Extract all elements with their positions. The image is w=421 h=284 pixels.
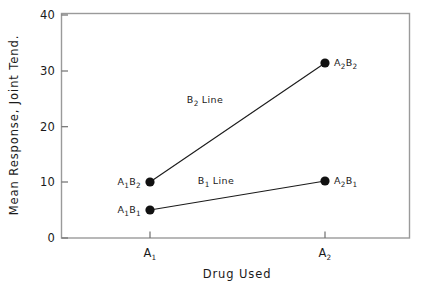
y-tick-label-0: 0 bbox=[47, 231, 55, 245]
x-tick-label-a2-base: A bbox=[319, 246, 327, 260]
y-axis-ticks bbox=[62, 15, 69, 238]
series-annotation-b2-sub: 2 bbox=[194, 99, 199, 108]
x-tick-label-a2: A2 bbox=[319, 246, 332, 262]
point-label-a1b1: A1B1 bbox=[117, 204, 141, 218]
series-line-b1 bbox=[150, 181, 325, 210]
data-point-a1b2[interactable] bbox=[145, 177, 154, 186]
x-axis-ticks bbox=[150, 232, 325, 239]
x-axis-title: Drug Used bbox=[203, 267, 272, 281]
point-label-a1b2: A1B2 bbox=[117, 176, 141, 190]
point-label-a1b1-b: B bbox=[129, 204, 136, 215]
series-annotation-b2-suffix: Line bbox=[202, 94, 223, 105]
point-label-a2b2-b: B bbox=[346, 57, 353, 68]
y-tick-label-10: 10 bbox=[40, 175, 55, 189]
series-annotation-b1-sub: 1 bbox=[205, 180, 210, 189]
point-label-a2b1: A2B1 bbox=[334, 175, 358, 189]
x-tick-label-a1-sub: 1 bbox=[152, 253, 157, 262]
y-tick-label-40: 40 bbox=[40, 8, 55, 22]
series-annotation-b2-base: B bbox=[187, 94, 194, 105]
x-tick-label-a2-sub: 2 bbox=[327, 253, 332, 262]
point-label-a2b2-b-sub: 2 bbox=[353, 62, 358, 71]
point-label-a1b2-b: B bbox=[129, 176, 136, 187]
y-tick-label-30: 30 bbox=[40, 64, 55, 78]
series-annotation-b1-base: B bbox=[198, 175, 205, 186]
series-annotation-b2: B2Line bbox=[187, 94, 223, 108]
x-tick-label-a1: A1 bbox=[144, 246, 157, 262]
point-label-a2b1-b: B bbox=[346, 175, 353, 186]
y-tick-label-20: 20 bbox=[40, 120, 55, 134]
series-annotation-b1: B1Line bbox=[198, 175, 234, 189]
data-point-a1b1[interactable] bbox=[145, 205, 154, 214]
data-point-a2b2[interactable] bbox=[320, 58, 329, 67]
chart-canvas: 0 10 20 30 40 A1 A2 Drug Used Mean Respo… bbox=[0, 0, 421, 284]
series-line-b2 bbox=[150, 63, 325, 182]
point-label-a2b2: A2B2 bbox=[334, 57, 358, 71]
point-label-a1b2-b-sub: 2 bbox=[136, 181, 141, 190]
y-axis-title: Mean Response, Joint Tend. bbox=[7, 35, 21, 215]
series-annotation-b1-suffix: Line bbox=[213, 175, 234, 186]
plot-frame bbox=[62, 14, 410, 239]
x-tick-label-a1-base: A bbox=[144, 246, 152, 260]
point-label-a1b1-b-sub: 1 bbox=[136, 209, 141, 218]
point-label-a2b1-b-sub: 1 bbox=[353, 180, 358, 189]
interaction-plot-figure: 0 10 20 30 40 A1 A2 Drug Used Mean Respo… bbox=[0, 0, 421, 284]
data-point-a2b1[interactable] bbox=[320, 176, 329, 185]
